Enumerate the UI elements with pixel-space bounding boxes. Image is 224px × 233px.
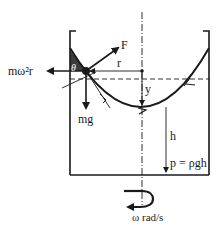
label-pressure: p = ρgh [170,156,207,170]
resultant-force-arrow [86,48,118,71]
label-weight: mg [78,112,93,126]
rotation-arrow-icon [128,191,153,207]
label-angle-theta: θ [71,62,76,73]
label-rotation: ω rad/s [132,211,163,223]
tangent-line [62,72,96,88]
label-rise-height: y [145,82,151,96]
label-depth: h [170,129,176,143]
label-radius: r [117,56,121,70]
rotating-fluid-diagram: mω²r F θ r y mg h p = ρgh ω rad/s [0,0,224,233]
surface-normal-line [86,71,110,108]
label-resultant-force: F [121,38,128,52]
parabolic-free-surface [70,48,209,107]
radius-end-dot [140,69,144,73]
label-centrifugal-force: mω²r [8,64,33,78]
container [70,31,209,175]
surface-marker-left [100,94,106,103]
